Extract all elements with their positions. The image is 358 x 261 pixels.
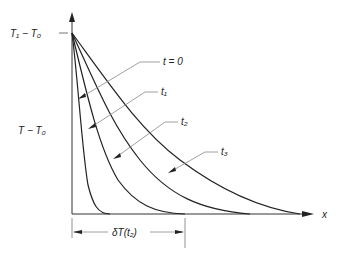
curve-label-t2: t₂	[181, 116, 188, 127]
y-axis-label: T − T₀	[18, 125, 46, 136]
dimension-left-arrow-icon	[73, 230, 82, 234]
temperature-profile-diagram: T₁ − T₀ T − T₀ x t = 0 t₁ t₂ t₃ δT(t₂)	[0, 0, 358, 261]
dimension-right-arrow-icon	[175, 230, 184, 234]
leader-t1-arrow-icon	[88, 123, 96, 129]
leader-t3	[170, 152, 218, 172]
curve-label-t3: t₃	[221, 146, 228, 157]
leader-t0	[80, 62, 160, 98]
leader-t2-arrow-icon	[113, 153, 121, 159]
y-axis-arrow-icon	[69, 12, 75, 22]
x-axis-label: x	[321, 209, 328, 220]
leader-t1	[90, 92, 158, 128]
leader-t2	[115, 122, 178, 158]
curve-label-t1: t₁	[161, 86, 167, 97]
dimension-label: δT(t₂)	[112, 227, 137, 238]
leader-t3-arrow-icon	[168, 167, 176, 173]
curve-t2	[72, 33, 250, 214]
x-axis-arrow-icon	[302, 211, 314, 217]
y-top-label: T₁ − T₀	[10, 28, 41, 39]
curve-label-t0: t = 0	[163, 56, 183, 67]
leader-t0-arrow-icon	[78, 93, 86, 99]
